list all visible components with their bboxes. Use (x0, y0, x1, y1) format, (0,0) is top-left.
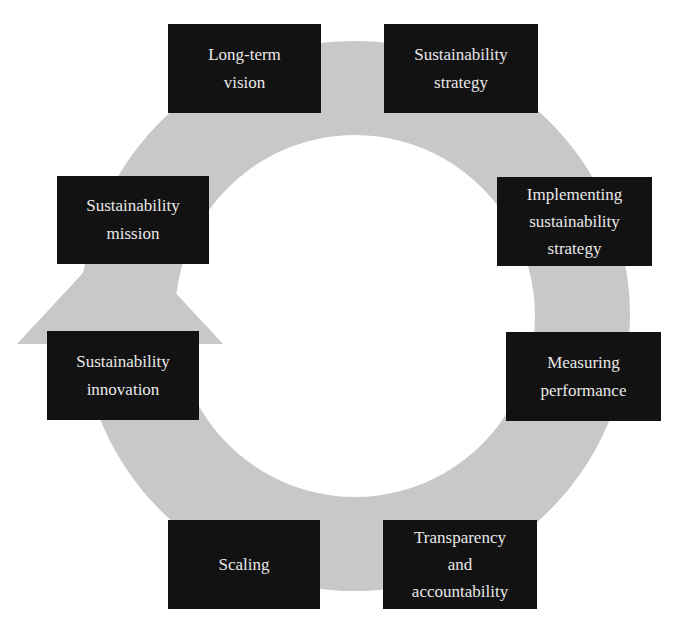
step-sustainability-innovation: Sustainability innovation (47, 331, 199, 420)
cycle-ring (0, 0, 677, 628)
step-label-line: Sustainability (86, 192, 180, 220)
sustainability-cycle-diagram: Long-term vision Sustainability strategy… (0, 0, 677, 628)
step-label-line: Transparency (414, 524, 506, 551)
step-sustainability-mission: Sustainability mission (57, 176, 209, 264)
step-long-term-vision: Long-term vision (168, 24, 321, 113)
step-label-line: vision (224, 69, 266, 97)
step-label-line: Measuring (547, 349, 620, 377)
step-label-line: and (448, 551, 473, 578)
step-label-line: Sustainability (414, 41, 508, 69)
step-implementing-sustainability-strategy: Implementing sustainability strategy (497, 177, 652, 266)
step-label-line: Long-term (208, 41, 281, 69)
step-label-line: Scaling (219, 551, 270, 579)
step-scaling: Scaling (168, 520, 320, 609)
step-label-line: Sustainability (76, 348, 170, 376)
step-sustainability-strategy: Sustainability strategy (384, 24, 538, 113)
step-label-line: sustainability (529, 208, 620, 235)
step-label-line: strategy (434, 69, 488, 97)
step-label-line: Implementing (527, 181, 622, 208)
step-label-line: strategy (548, 235, 602, 262)
step-label-line: innovation (87, 376, 160, 404)
step-label-line: performance (541, 377, 627, 405)
step-label-line: accountability (412, 578, 508, 605)
step-measuring-performance: Measuring performance (506, 332, 661, 421)
step-label-line: mission (107, 220, 160, 248)
step-transparency-and-accountability: Transparency and accountability (383, 520, 537, 609)
